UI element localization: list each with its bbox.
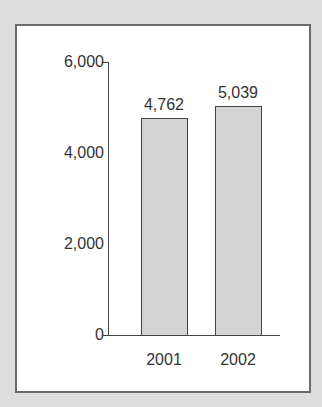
y-axis-line	[108, 62, 109, 335]
y-tick-label: 0	[95, 327, 104, 343]
y-tick-label: 6,000	[64, 54, 104, 70]
x-tick-label: 2001	[134, 352, 194, 368]
y-tick-label: 4,000	[64, 145, 104, 161]
bar-2001	[141, 118, 188, 335]
bar-2002	[215, 106, 262, 335]
x-tick-label: 2002	[208, 352, 268, 368]
y-tick-label: 2,000	[64, 236, 104, 252]
bar-value-label: 5,039	[208, 85, 268, 101]
x-axis-line	[103, 335, 280, 336]
bar-value-label: 4,762	[134, 97, 194, 113]
